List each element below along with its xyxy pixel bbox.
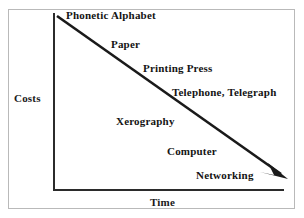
milestone-label: Computer	[167, 145, 217, 157]
down-right-arrow-icon	[260, 163, 288, 179]
trend-arrow	[0, 0, 304, 218]
milestone-label: Paper	[111, 38, 140, 50]
milestone-label: Printing Press	[143, 62, 213, 74]
y-axis-label: Costs	[14, 92, 41, 104]
diagram-canvas: Costs Time Phonetic Alphabet Paper Print…	[0, 0, 304, 218]
x-axis-label: Time	[150, 196, 175, 208]
milestone-label: Telephone, Telegraph	[172, 86, 276, 98]
milestone-label: Xerography	[116, 115, 175, 127]
milestone-label: Phonetic Alphabet	[66, 9, 156, 21]
milestone-label: Networking	[196, 169, 254, 181]
